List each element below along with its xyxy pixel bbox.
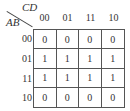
kmap-cell: 0 [79, 30, 102, 49]
kmap-cell: 1 [102, 69, 125, 88]
karnaugh-map: CD AB 00 01 11 10 00 01 11 10 0 0 0 0 1 … [0, 0, 130, 111]
kmap-cell: 0 [34, 88, 57, 107]
column-header: 01 [56, 12, 79, 23]
kmap-cell: 1 [79, 49, 102, 68]
kmap-cell: 1 [79, 69, 102, 88]
kmap-cell: 0 [79, 88, 102, 107]
row-header: 01 [14, 53, 32, 64]
kmap-cell: 0 [102, 30, 125, 49]
kmap-cell: 0 [102, 88, 125, 107]
row-header: 10 [14, 92, 32, 103]
kmap-cell: 1 [57, 69, 80, 88]
kmap-cell: 1 [34, 49, 57, 68]
kmap-grid: 0 0 0 0 1 1 1 1 1 1 1 1 0 0 0 0 [33, 29, 125, 108]
kmap-cell: 1 [102, 49, 125, 68]
column-header: 10 [102, 12, 125, 23]
kmap-cell: 0 [34, 30, 57, 49]
row-header: 11 [14, 73, 32, 84]
row-header: 00 [14, 33, 32, 44]
kmap-cell: 1 [57, 49, 80, 68]
column-header: 00 [33, 12, 56, 23]
kmap-cell: 0 [57, 88, 80, 107]
kmap-cell: 0 [57, 30, 80, 49]
column-header: 11 [79, 12, 102, 23]
kmap-cell: 1 [34, 69, 57, 88]
